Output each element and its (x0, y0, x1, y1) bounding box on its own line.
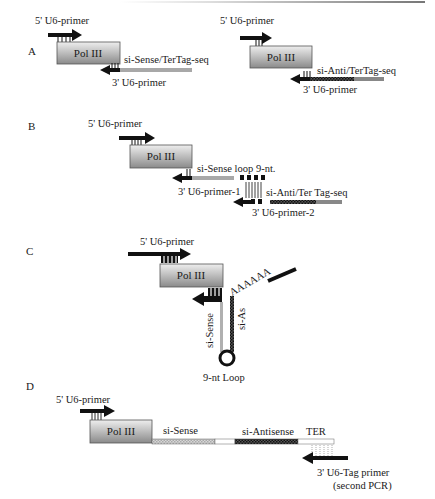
sense-label: si-Sense (163, 425, 198, 436)
panel-b: B 5' U6-primer Pol III si-Sense loop 9-n… (28, 118, 348, 218)
forward-primer-label: 5' U6-primer (56, 394, 111, 405)
reverse-primer-label: 3' U6-primer (112, 77, 167, 88)
reverse-primer-note: (second PCR) (333, 480, 392, 492)
sense-strand (192, 176, 234, 180)
insert-1-label: si-Sense loop 9-nt. (197, 163, 275, 174)
forward-primer-arrow-icon (80, 405, 115, 420)
ter-tag-strand (354, 77, 384, 81)
panel-label-b: B (28, 120, 35, 132)
loop-label: 9-nt Loop (203, 372, 245, 383)
reverse-primer-arrow-icon (290, 71, 310, 84)
insert-label: si-Sense/TerTag-seq (124, 54, 210, 65)
sense-stem (220, 302, 223, 352)
reverse-primer-1-label: 3' U6-primer-1 (178, 186, 241, 197)
reverse-primer-label: 3' U6-primer (303, 84, 358, 95)
reverse-primer-arrow-icon (100, 63, 120, 75)
panel-a-right-construct: 5' U6-primer Pol III si-Anti/TerTag-seq … (220, 15, 397, 95)
reverse-primer-2-arrow-icon (233, 197, 251, 207)
insert-label: si-Anti/TerTag-seq (317, 65, 397, 76)
forward-primer-label: 5' U6-primer (88, 118, 143, 129)
top-rule (120, 1, 425, 3)
reverse-primer-label: 3' U6-Tag primer (317, 467, 390, 478)
promoter-label: Pol III (177, 269, 206, 281)
promoter-label: Pol III (74, 47, 103, 59)
forward-primer-label: 5' U6-primer (140, 236, 195, 247)
panel-label-a: A (28, 45, 36, 57)
forward-primer-arrow-icon (48, 29, 82, 42)
loop-dashes (240, 175, 265, 204)
antisense-label: si-Antisense (242, 426, 294, 437)
ter-tag-strand (316, 200, 342, 204)
hairpin-loop (220, 351, 234, 365)
construct-bar (152, 439, 334, 444)
panel-d: D 5' U6-primer Pol III si-Sense si-Antis… (26, 380, 392, 492)
reverse-primer-1-arrow-icon (172, 169, 192, 183)
sense-strand-label: si-Sense (204, 313, 215, 348)
sense-tag-strand (120, 68, 192, 72)
promoter-label: Pol III (147, 150, 176, 162)
forward-primer-label: 5' U6-primer (35, 15, 90, 26)
antisense-stem (230, 296, 234, 352)
reverse-primer-2-label: 3' U6-primer-2 (252, 207, 315, 218)
panel-c: C 5' U6-primer Pol III si-Sense si-As AA… (26, 236, 296, 383)
promoter-label: Pol III (267, 51, 296, 63)
antisense-strand-label: si-As (236, 308, 247, 330)
panel-a-left-construct: 5' U6-primer Pol III si-Sense/TerTag-seq (35, 15, 210, 88)
promoter-label: Pol III (107, 425, 136, 437)
terminator-label: TER (306, 426, 326, 437)
sirna-construct-diagram: A 5' U6-primer Pol III si-Sense/TerTag-s… (0, 0, 435, 499)
panel-a: A 5' U6-primer Pol III si-Sense/TerTag-s… (28, 15, 397, 95)
forward-primer-arrow-icon (119, 132, 155, 146)
panel-label-c: C (26, 245, 33, 257)
forward-primer-arrow-icon (240, 32, 272, 46)
insert-2-label: si-Anti/Ter Tag-seq (266, 187, 348, 198)
forward-primer-label: 5' U6-primer (220, 15, 275, 26)
antisense-strand (310, 77, 354, 81)
panel-label-d: D (26, 380, 34, 392)
antisense-strand (270, 200, 316, 204)
forward-primer-arrow-icon (128, 248, 191, 263)
reverse-primer-arrow-icon (192, 288, 222, 306)
poly-a-tail: AAAAAA (228, 265, 273, 297)
reverse-primer-arrow-icon (302, 445, 348, 464)
